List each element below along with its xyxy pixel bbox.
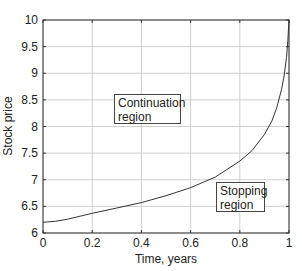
x-tick-label: 0 (40, 236, 47, 250)
y-tick-label: 10 (25, 13, 39, 27)
x-tick-labels: 00.20.40.60.81 (40, 236, 293, 250)
stopping-region-label: Stopping region (216, 182, 265, 212)
x-tick-label: 0.2 (84, 236, 101, 250)
y-tick-label: 8.5 (21, 93, 38, 107)
x-tick-label: 0.4 (133, 236, 150, 250)
y-axis-title: Stock price (1, 96, 15, 156)
stopping-line2: region (220, 198, 261, 212)
chart-canvas: 00.20.40.60.81 66.577.588.599.510 Time, … (0, 0, 302, 271)
x-tick-label: 1 (286, 236, 293, 250)
x-tick-label: 0.8 (231, 236, 248, 250)
stopping-line1: Stopping (220, 184, 261, 198)
y-tick-label: 6 (31, 226, 38, 240)
y-tick-label: 9.5 (21, 40, 38, 54)
x-axis-title: Time, years (135, 252, 197, 266)
continuation-line1: Continuation (118, 96, 177, 110)
y-tick-labels: 66.577.588.599.510 (21, 13, 38, 240)
y-tick-label: 8 (31, 120, 38, 134)
continuation-region-label: Continuation region (114, 94, 181, 124)
y-tick-label: 9 (31, 66, 38, 80)
y-tick-label: 6.5 (21, 199, 38, 213)
continuation-line2: region (118, 110, 177, 124)
y-tick-label: 7 (31, 173, 38, 187)
x-tick-label: 0.6 (182, 236, 199, 250)
y-tick-label: 7.5 (21, 146, 38, 160)
